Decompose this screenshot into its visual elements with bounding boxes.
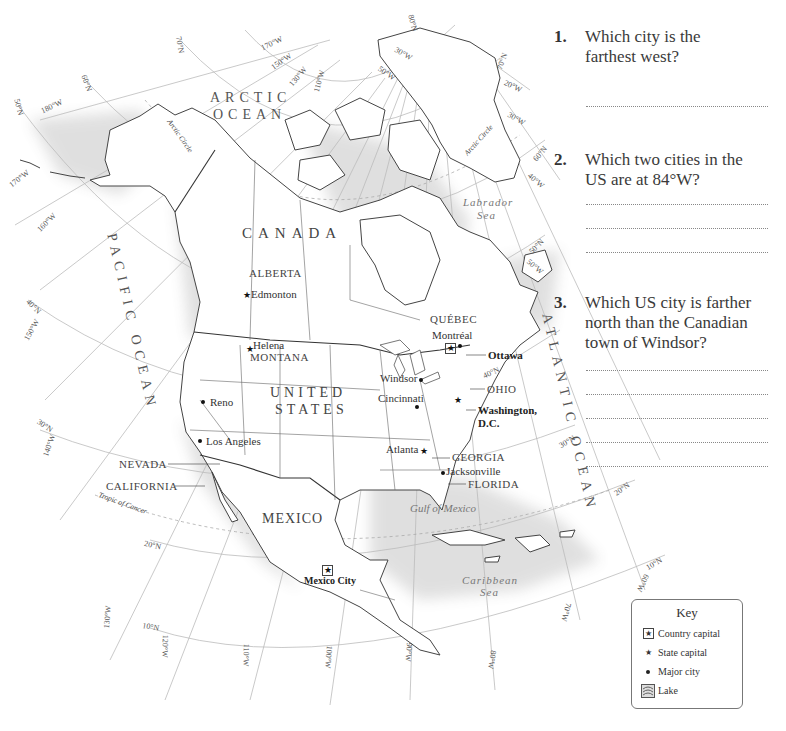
answer-line-q3-1[interactable] — [586, 370, 768, 371]
canada-label: CANADA — [242, 226, 342, 241]
city-edmonton: Edmonton — [251, 289, 297, 300]
united-states-label-2: STATES — [275, 403, 348, 417]
key-item-label: Lake — [658, 685, 678, 696]
city-washington-dc: Washington, — [478, 405, 537, 416]
question-line: town of Windsor? — [585, 333, 779, 353]
state-capital-icon: ★ — [243, 291, 251, 300]
city-helena: Helena — [253, 340, 284, 351]
answer-line-q2-3[interactable] — [586, 252, 768, 253]
united-states-label: UNITED — [270, 386, 346, 400]
key-item-label: State capital — [658, 647, 707, 658]
state-capital-icon: ★ — [420, 447, 428, 456]
question-2: 2. Which two cities in the US are at 84°… — [554, 150, 779, 190]
question-3: 3. Which US city is farther north than t… — [554, 293, 779, 353]
answer-line-q1-1[interactable] — [586, 106, 768, 107]
florida-label: FLORIDA — [468, 479, 519, 490]
major-city-icon — [415, 405, 419, 409]
state-capital-icon: ★ — [638, 648, 658, 657]
lat-label: 70°N — [174, 36, 185, 54]
map-key: Key ★ Country capital ★ State capital Ma… — [631, 599, 743, 709]
city-ottawa: Ottawa — [488, 350, 523, 361]
major-city-icon — [441, 471, 445, 475]
key-item-major-city: Major city — [632, 662, 742, 681]
question-number: 1. — [554, 27, 567, 47]
arctic-ocean-label: ARCTIC — [210, 91, 291, 105]
arctic-ocean-label-2: OCEAN — [213, 108, 286, 122]
lon-label: 110°W — [241, 644, 250, 667]
ohio-label: OHIO — [487, 384, 517, 395]
city-windsor: Windsor — [380, 373, 417, 384]
labrador-sea-label-2: Sea — [477, 210, 496, 221]
answer-line-q3-3[interactable] — [586, 418, 768, 419]
answer-line-q2-2[interactable] — [586, 228, 768, 229]
question-number: 2. — [554, 150, 567, 170]
question-number: 3. — [554, 293, 567, 313]
question-line: north than the Canadian — [585, 313, 779, 333]
lake-icon — [638, 684, 658, 698]
california-label: CALIFORNIA — [106, 481, 178, 492]
montana-label: MONTANA — [250, 352, 309, 363]
key-item-label: Country capital — [658, 628, 720, 639]
major-city-icon — [198, 439, 202, 443]
key-item-lake: Lake — [632, 681, 742, 700]
georgia-label: GEORGIA — [452, 452, 505, 463]
question-line: Which US city is farther — [585, 293, 779, 313]
major-city-icon — [458, 344, 462, 348]
question-line: Which city is the — [585, 27, 779, 47]
city-atlanta: Atlanta — [386, 444, 418, 455]
city-cincinnati: Cincinnati — [378, 393, 424, 404]
key-title: Key — [632, 605, 742, 621]
answer-line-q3-5[interactable] — [586, 466, 768, 467]
city-jacksonville: Jacksonville — [446, 466, 500, 477]
question-1: 1. Which city is the farthest west? — [554, 27, 779, 67]
question-text: Which US city is farther north than the … — [585, 293, 779, 353]
major-city-icon — [201, 400, 205, 404]
question-text: Which city is the farthest west? — [585, 27, 779, 67]
city-los-angeles: Los Angeles — [206, 436, 261, 447]
lon-label: 100°W — [323, 645, 333, 668]
question-line: US are at 84°W? — [585, 170, 779, 190]
city-washington-dc-2: D.C. — [478, 418, 499, 429]
question-text: Which two cities in the US are at 84°W? — [585, 150, 779, 190]
caribbean-sea-label: Caribbean — [462, 575, 518, 586]
major-city-icon — [638, 670, 658, 674]
alberta-label: ALBERTA — [249, 268, 302, 279]
labrador-sea-label: Labrador — [463, 197, 513, 208]
city-montreal: Montréal — [432, 330, 472, 341]
country-capital-icon: ★ — [445, 343, 456, 354]
nevada-label: NEVADA — [119, 459, 167, 470]
lon-label: 90°W — [403, 642, 413, 661]
mexico-label: MEXICO — [262, 512, 323, 526]
question-line: Which two cities in the — [585, 150, 779, 170]
quebec-label: QUÉBEC — [430, 314, 477, 325]
city-mexico-city: Mexico City — [304, 576, 356, 586]
key-item-state-capital: ★ State capital — [632, 643, 742, 662]
gulf-of-mexico-label: Gulf of Mexico — [410, 503, 476, 514]
country-capital-icon: ★ — [638, 628, 658, 639]
country-capital-icon: ★ — [454, 396, 462, 405]
major-city-icon — [419, 378, 423, 382]
answer-line-q3-2[interactable] — [586, 394, 768, 395]
key-item-country-capital: ★ Country capital — [632, 624, 742, 643]
answer-line-q2-1[interactable] — [586, 204, 768, 205]
lon-label: 120°W — [160, 635, 169, 658]
caribbean-sea-label-2: Sea — [480, 587, 499, 598]
city-reno: Reno — [210, 397, 233, 408]
key-item-label: Major city — [658, 666, 700, 677]
answer-line-q3-4[interactable] — [586, 442, 768, 443]
question-line: farthest west? — [585, 47, 779, 67]
